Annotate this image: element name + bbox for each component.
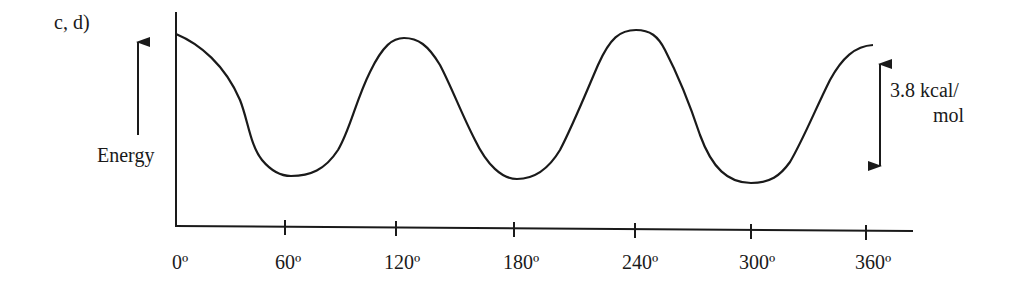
barrier-label-line1: 3.8 kcal/ <box>890 79 959 101</box>
energy-curve <box>176 30 873 183</box>
tick-label: 120º <box>384 251 420 273</box>
energy-diagram: c, d) Energy 0º 60º 120º 180º 240º 300º … <box>0 0 1028 293</box>
barrier-label-line2: mol <box>933 104 965 126</box>
tick-label: 0º <box>172 251 188 273</box>
y-axis-label: Energy <box>97 144 154 167</box>
tick-label: 360º <box>855 251 891 273</box>
x-tick-labels: 0º 60º 120º 180º 240º 300º 360º <box>172 251 891 273</box>
tick-label: 240º <box>622 251 658 273</box>
tick-label: 300º <box>739 251 775 273</box>
tick-label: 180º <box>503 251 539 273</box>
panel-label: c, d) <box>54 11 90 34</box>
tick-label: 60º <box>275 251 301 273</box>
